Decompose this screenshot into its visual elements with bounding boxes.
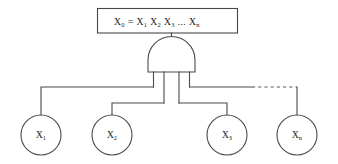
node-label-x1-sub: 1	[43, 134, 46, 141]
formula-base: X	[114, 16, 121, 27]
bus-lower-right	[179, 103, 227, 115]
node-label-x2-sub: 2	[114, 134, 117, 141]
formula-term-0-base: X	[136, 16, 143, 27]
formula-term-1-base: X	[150, 16, 157, 27]
formula-last-sub: n	[196, 21, 200, 28]
fault-tree-diagram: X0 = X1 X2 X3 ... Xn X1 X2	[0, 0, 338, 164]
node-label-x3-sub: 3	[229, 134, 232, 141]
and-gate-shape	[148, 37, 195, 73]
bus-lower-left	[112, 103, 164, 115]
formula-ellipsis: ...	[178, 16, 186, 27]
bus-upper-left	[41, 87, 154, 115]
formula-last-base: X	[189, 16, 196, 27]
formula-term-2-base: X	[164, 16, 171, 27]
formula-label: X0 = X1 X2 X3 ... Xn	[114, 16, 200, 28]
